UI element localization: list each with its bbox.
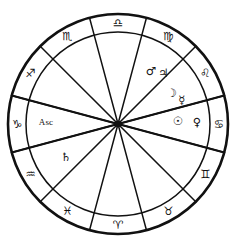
planet-glyph-moon: ☽ [167,86,177,100]
sign-glyph-aries: ♈ [113,218,124,232]
sign-glyph-capricorn: ♑ [12,117,22,131]
chart-wheel-svg: ♎♍♌♋♊♉♈♓♒♑♐♏ ♂♃☽☿☉♀♄ Asc [0,0,236,244]
astrology-chart-wheel: ♎♍♌♋♊♉♈♓♒♑♐♏ ♂♃☽☿☉♀♄ Asc [0,0,236,244]
sign-glyph-sagittarius: ♐ [25,66,35,80]
chart-point-layer: Asc [39,117,54,127]
sign-glyph-scorpio: ♏ [62,29,72,43]
planet-glyph-mars: ♂ [146,64,156,78]
chart-point-ascendant: Asc [39,117,54,127]
sign-glyph-aquarius: ♒ [25,167,35,181]
sign-glyph-pisces: ♓ [62,204,72,218]
chart-center-point [115,121,121,127]
sign-glyph-gemini: ♊ [200,167,210,181]
planet-glyph-saturn: ♄ [61,150,71,164]
planet-glyph-jupiter: ♃ [158,66,168,80]
planet-glyph-sun: ☉ [173,114,183,128]
sign-glyph-libra: ♎ [113,16,123,30]
planet-glyph-mercury: ☿ [178,93,185,107]
sign-glyph-leo: ♌ [200,66,210,80]
sign-glyph-taurus: ♉ [163,204,173,218]
planet-glyph-venus: ♀ [193,115,201,129]
sign-glyph-virgo: ♍ [163,29,173,43]
sign-glyph-cancer: ♋ [214,117,224,131]
